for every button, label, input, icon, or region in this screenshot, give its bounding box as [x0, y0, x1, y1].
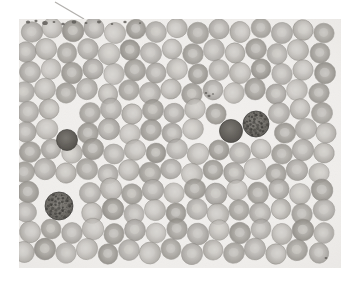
- debris-speck: [26, 20, 30, 23]
- debris-speck: [34, 20, 37, 22]
- debris-speck: [85, 22, 88, 24]
- debris-speck: [207, 95, 210, 97]
- leukocyte-lymphocyte-dark-small: [57, 130, 78, 151]
- debris-speck: [53, 21, 56, 23]
- debris-speck: [212, 93, 214, 95]
- debris-speck: [111, 23, 114, 25]
- blood-smear-micrograph: [19, 19, 341, 268]
- erythrocyte: [57, 43, 77, 64]
- debris-speck: [72, 20, 77, 23]
- erythrocyte: [103, 63, 124, 85]
- erythrocyte: [21, 22, 42, 42]
- erythrocyte: [36, 118, 58, 139]
- debris-speck: [42, 21, 48, 25]
- debris-speck: [205, 92, 208, 94]
- erythrocyte: [167, 139, 188, 159]
- debris-speck: [139, 22, 141, 24]
- debris-speck: [97, 21, 101, 24]
- erythrocyte: [203, 160, 224, 180]
- leukocyte-granulocyte-center-right: [243, 111, 269, 137]
- debris-speck: [325, 257, 328, 259]
- debris-speck: [123, 21, 126, 23]
- erythrocyte: [289, 183, 311, 205]
- erythrocyte: [244, 78, 266, 101]
- erythrocyte: [203, 240, 223, 261]
- debris-speck: [61, 23, 65, 26]
- erythrocyte: [166, 218, 187, 240]
- leukocyte-granulocyte-bottom-left: [45, 192, 73, 220]
- figure-root: [0, 0, 354, 282]
- leukocyte-lymphocyte-dark-center: [220, 120, 243, 143]
